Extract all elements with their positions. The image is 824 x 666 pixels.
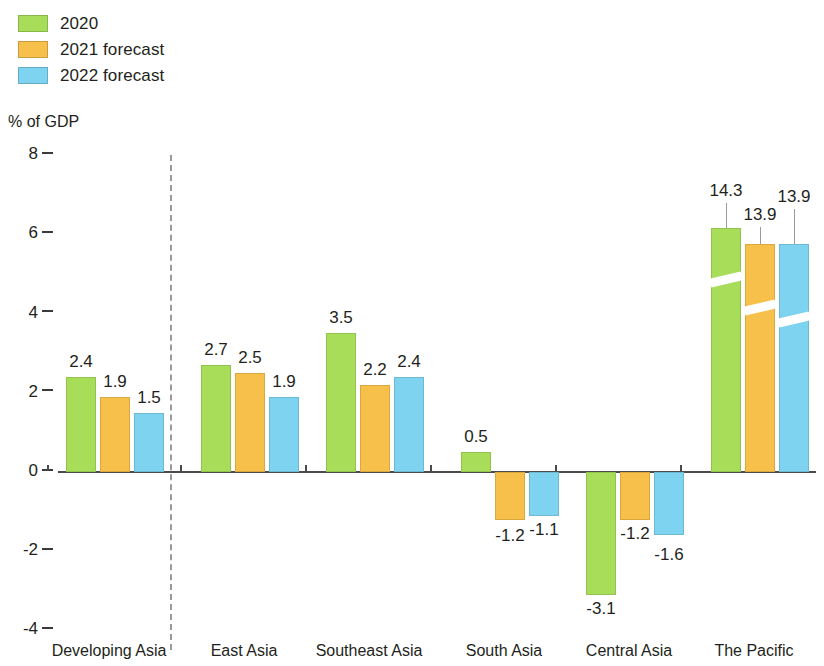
x-axis-tickmark bbox=[305, 465, 307, 471]
bar-south-asia-2020 bbox=[461, 452, 491, 472]
y-axis-tick: 6 bbox=[4, 223, 53, 243]
bar-value-label: -1.1 bbox=[517, 520, 571, 540]
y-axis-tick: -2 bbox=[4, 540, 53, 560]
gdp-bar-chart: 2020 2021 forecast 2022 forecast % of GD… bbox=[0, 0, 824, 666]
bar-developing-asia-2022-forecast bbox=[134, 413, 164, 472]
bar-value-label: 3.5 bbox=[314, 308, 368, 328]
value-label-leader-line bbox=[794, 209, 795, 244]
bar-value-label: 14.3 bbox=[699, 181, 753, 201]
bar-value-label: 2.5 bbox=[223, 348, 277, 368]
value-label-leader-line bbox=[726, 203, 727, 228]
value-label-leader-line bbox=[760, 227, 761, 244]
bar-value-label: 13.9 bbox=[767, 187, 821, 207]
bar-value-label: -1.6 bbox=[642, 545, 696, 565]
bar-value-label: 0.5 bbox=[449, 427, 503, 447]
y-axis-tick: 8 bbox=[4, 144, 53, 164]
bar-central-asia-2021-forecast bbox=[620, 472, 650, 520]
axis-break-mark bbox=[743, 300, 776, 316]
x-axis-tickmark bbox=[680, 465, 682, 471]
x-axis-tickmark bbox=[555, 465, 557, 471]
bar-south-asia-2021-forecast bbox=[495, 472, 525, 520]
plot-area: 86420-2-42.41.91.5Developing Asia2.72.51… bbox=[0, 0, 824, 666]
x-axis-tickmark bbox=[47, 465, 49, 471]
bar-value-label: 2.4 bbox=[382, 352, 436, 372]
bar-the-pacific-2022-forecast bbox=[779, 244, 809, 472]
bar-southeast-asia-2020 bbox=[326, 333, 356, 472]
bar-the-pacific-2021-forecast bbox=[745, 244, 775, 472]
y-axis-tick: 0 bbox=[4, 461, 53, 481]
bar-south-asia-2022-forecast bbox=[529, 472, 559, 516]
bar-value-label: 1.9 bbox=[257, 372, 311, 392]
bar-east-asia-2020 bbox=[201, 365, 231, 472]
axis-break-mark bbox=[709, 272, 742, 288]
x-axis-tickmark bbox=[430, 465, 432, 471]
x-axis-tickmark bbox=[180, 465, 182, 471]
x-axis-label-the-pacific: The Pacific bbox=[654, 642, 824, 660]
axis-break-mark bbox=[777, 312, 810, 328]
bar-value-label: 1.5 bbox=[122, 388, 176, 408]
bar-east-asia-2022-forecast bbox=[269, 397, 299, 472]
bar-the-pacific-2020 bbox=[711, 228, 741, 472]
bar-southeast-asia-2022-forecast bbox=[394, 377, 424, 472]
bar-southeast-asia-2021-forecast bbox=[360, 385, 390, 472]
bar-developing-asia-2021-forecast bbox=[100, 397, 130, 472]
y-axis-tick: -4 bbox=[4, 619, 53, 639]
bar-central-asia-2022-forecast bbox=[654, 472, 684, 535]
bar-value-label: 13.9 bbox=[733, 205, 787, 225]
bar-value-label: 2.4 bbox=[54, 352, 108, 372]
y-axis-tick: 4 bbox=[4, 303, 53, 323]
y-axis-tick: 2 bbox=[4, 382, 53, 402]
bar-value-label: -3.1 bbox=[574, 599, 628, 619]
